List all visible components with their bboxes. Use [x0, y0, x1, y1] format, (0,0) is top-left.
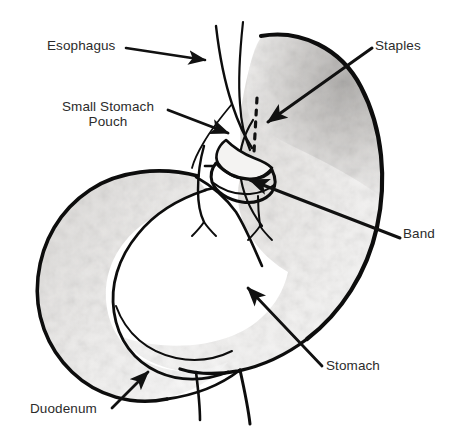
diagram-page: Esophagus Small Stomach Pouch Staples Ba…: [0, 0, 456, 446]
leader-line-esophagus: [126, 48, 205, 60]
anatomy-diagram: [0, 0, 456, 446]
label-band: Band: [403, 226, 435, 241]
label-staples: Staples: [375, 38, 421, 53]
label-duodenum: Duodenum: [30, 401, 97, 416]
label-esophagus: Esophagus: [47, 38, 115, 53]
label-small-stomach-pouch: Small Stomach Pouch: [46, 99, 170, 129]
label-stomach: Stomach: [326, 358, 380, 373]
